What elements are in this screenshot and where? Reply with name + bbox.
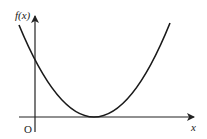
y-axis-label: f(x) (15, 9, 31, 22)
parabola-curve (19, 23, 170, 117)
function-graph: f(x) x O (0, 0, 207, 139)
origin-label: O (24, 123, 32, 135)
x-axis-label: x (190, 121, 196, 133)
